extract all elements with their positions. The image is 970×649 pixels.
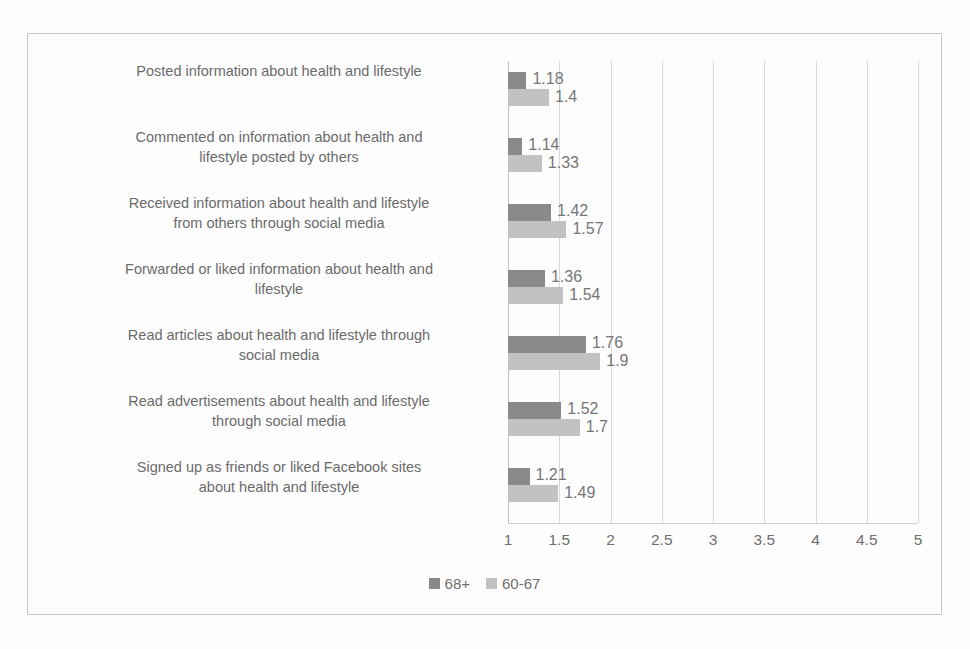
x-tick-label: 1 — [504, 531, 513, 549]
chart-row: Commented on information about health an… — [508, 127, 918, 193]
bar-60to67 — [508, 287, 563, 304]
bar-value-label: 1.54 — [569, 287, 600, 303]
bar-60to67 — [508, 155, 542, 172]
bar-value-label: 1.7 — [586, 419, 608, 435]
category-label: Forwarded or liked information about hea… — [64, 259, 494, 299]
category-label: Read articles about health and lifestyle… — [64, 325, 494, 365]
bar-value-label: 1.4 — [555, 89, 577, 105]
x-tick-label: 1.5 — [548, 531, 570, 549]
x-tick-label: 4.5 — [856, 531, 878, 549]
x-tick-label: 3 — [709, 531, 718, 549]
bar-60to67 — [508, 89, 549, 106]
x-tick-label: 5 — [914, 531, 923, 549]
bar-68plus — [508, 72, 526, 89]
bar-68plus — [508, 402, 561, 419]
bar-value-label: 1.33 — [548, 155, 579, 171]
bar-value-label: 1.49 — [564, 485, 595, 501]
category-label: Read advertisements about health and lif… — [64, 391, 494, 431]
bar-value-label: 1.18 — [532, 71, 563, 87]
legend-item[interactable]: 68+ — [429, 575, 470, 592]
x-tick-label: 4 — [811, 531, 820, 549]
bar-value-label: 1.21 — [536, 467, 567, 483]
legend-item[interactable]: 60-67 — [486, 575, 540, 592]
bar-value-label: 1.42 — [557, 203, 588, 219]
x-axis-baseline — [508, 523, 918, 524]
bar-60to67 — [508, 485, 558, 502]
bar-value-label: 1.36 — [551, 269, 582, 285]
bar-value-label: 1.52 — [567, 401, 598, 417]
x-tick-label: 3.5 — [753, 531, 775, 549]
chart-row: Posted information about health and life… — [508, 61, 918, 127]
legend-label: 60-67 — [502, 575, 540, 592]
bar-60to67 — [508, 419, 580, 436]
legend-label: 68+ — [445, 575, 470, 592]
plot-area: Posted information about health and life… — [508, 61, 918, 523]
chart-row: Read advertisements about health and lif… — [508, 391, 918, 457]
bar-68plus — [508, 336, 586, 353]
bar-value-label: 1.9 — [606, 353, 628, 369]
gridline-5 — [918, 61, 919, 523]
chart-legend: 68+60-67 — [28, 575, 941, 592]
chart-row: Received information about health and li… — [508, 193, 918, 259]
chart-row: Forwarded or liked information about hea… — [508, 259, 918, 325]
bar-68plus — [508, 270, 545, 287]
bar-value-label: 1.76 — [592, 335, 623, 351]
bar-60to67 — [508, 221, 566, 238]
legend-swatch-icon — [486, 578, 497, 589]
bar-value-label: 1.57 — [572, 221, 603, 237]
bar-value-label: 1.14 — [528, 137, 559, 153]
bar-68plus — [508, 138, 522, 155]
bar-68plus — [508, 468, 530, 485]
chart-frame: Posted information about health and life… — [27, 33, 942, 615]
category-label: Signed up as friends or liked Facebook s… — [64, 457, 494, 497]
chart-row: Signed up as friends or liked Facebook s… — [508, 457, 918, 523]
legend-swatch-icon — [429, 578, 440, 589]
category-label: Commented on information about health an… — [64, 127, 494, 167]
category-label: Posted information about health and life… — [64, 61, 494, 81]
x-axis-tick-labels: 11.522.533.544.55 — [508, 531, 918, 555]
bar-68plus — [508, 204, 551, 221]
chart-row: Read articles about health and lifestyle… — [508, 325, 918, 391]
x-tick-label: 2.5 — [651, 531, 673, 549]
x-tick-label: 2 — [606, 531, 615, 549]
category-label: Received information about health and li… — [64, 193, 494, 233]
bar-60to67 — [508, 353, 600, 370]
